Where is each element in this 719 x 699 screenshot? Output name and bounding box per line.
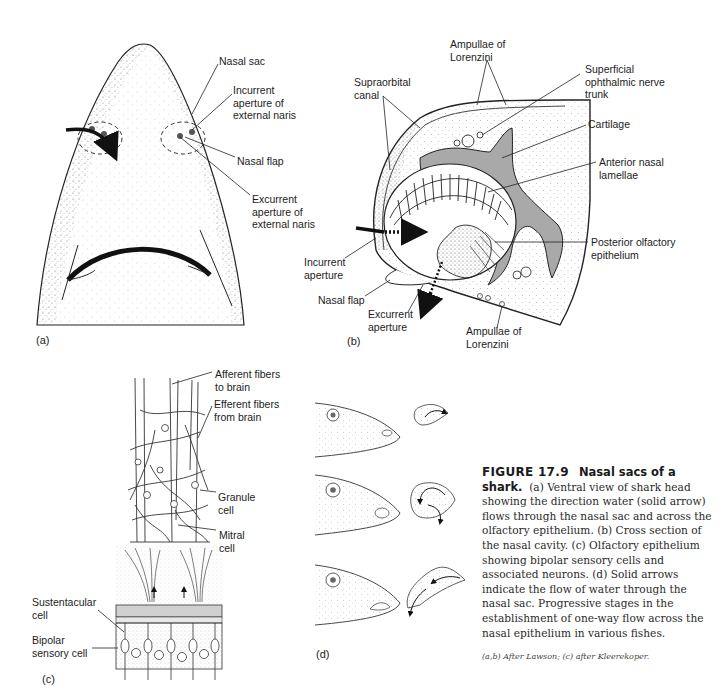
nasal-flow-stages-illustration (300, 395, 480, 685)
label-nasal-flap-a: Nasal flap (237, 155, 284, 168)
figure-caption-body: (a) Ventral view of shark head showing t… (482, 481, 712, 639)
label-sustentacular-cell: Sustentacular cell (32, 596, 96, 621)
label-excurrent-aperture: Excurrent aperture (368, 308, 413, 333)
panel-a-tag: (a) (36, 334, 49, 346)
excurrent-flow-arrow-icon (424, 292, 431, 310)
label-posterior-olfactory-epithelium: Posterior olfactory epithelium (591, 236, 676, 261)
label-afferent-fibers: Afferent fibers to brain (215, 368, 280, 393)
label-supraorbital-canal: Supraorbital canal (354, 76, 411, 101)
label-ampullae-lorenzini-top: Ampullae of Lorenzini (450, 38, 505, 63)
label-nasal-flap-b: Nasal flap (318, 294, 365, 307)
figure-caption: FIGURE 17.9 Nasal sacs of a shark. (a) V… (482, 465, 714, 640)
panel-c-tag: (c) (42, 673, 55, 685)
label-bipolar-sensory-cell: Bipolar sensory cell (32, 634, 87, 659)
label-granule-cell: Granule cell (218, 491, 255, 516)
shark-head-ventral-illustration (0, 0, 330, 350)
label-cartilage: Cartilage (588, 118, 630, 131)
panel-a: Nasal sac Incurrent aperture of external… (0, 0, 330, 350)
label-incurrent-aperture: Incurrent aperture (304, 256, 345, 281)
panel-b-tag: (b) (347, 335, 360, 347)
figure-number: FIGURE 17.9 (482, 465, 569, 479)
panel-b: Ampullae of Lorenzini Supraorbital canal… (290, 0, 719, 360)
label-ampullae-lorenzini-bottom: Ampullae of Lorenzini (466, 325, 521, 350)
label-nasal-sac: Nasal sac (219, 55, 265, 68)
label-superficial-ophthalmic-nerve: Superficial ophthalmic nerve trunk (585, 63, 665, 101)
stage-3 (315, 565, 465, 625)
label-efferent-fibers: Efferent fibers from brain (214, 398, 279, 423)
stage-1 (315, 403, 448, 457)
panel-c: Afferent fibers to brain Efferent fibers… (0, 370, 300, 699)
panel-d: (d) (300, 395, 480, 685)
label-incurrent-aperture-naris: Incurrent aperture of external naris (233, 84, 296, 122)
panel-d-tag: (d) (316, 648, 329, 660)
label-anterior-nasal-lamellae: Anterior nasal lamellae (599, 156, 664, 181)
figure-credit: (a,b) After Lawson; (c) after Kleerekope… (482, 652, 649, 661)
stage-2 (315, 475, 455, 535)
label-mitral-cell: Mitral cell (219, 529, 245, 554)
